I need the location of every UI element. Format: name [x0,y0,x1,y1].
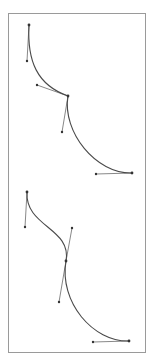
control-point[interactable] [71,227,73,229]
anchor-point[interactable] [128,340,131,343]
anchor-point[interactable] [28,24,31,27]
control-point[interactable] [26,60,28,62]
control-point[interactable] [36,84,38,86]
control-point[interactable] [92,341,94,343]
diagram-frame [9,14,146,353]
bezier-curve [29,25,132,173]
anchor-point[interactable] [131,172,134,175]
curve-top [26,24,134,176]
bezier-curve [27,192,129,341]
curves-group [24,24,134,344]
control-point[interactable] [24,226,26,228]
control-point[interactable] [58,301,60,303]
anchor-point[interactable] [65,260,68,263]
bezier-diagram [0,0,152,364]
control-point[interactable] [61,131,63,133]
curve-bottom [24,191,131,344]
anchor-point[interactable] [26,191,29,194]
control-point[interactable] [95,173,97,175]
anchor-point[interactable] [67,95,70,98]
